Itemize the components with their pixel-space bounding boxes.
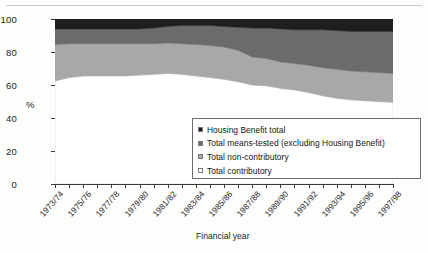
legend-swatch-icon	[198, 154, 203, 159]
x-tick	[252, 185, 253, 188]
legend-item[interactable]: Total means-tested (excluding Housing Be…	[198, 137, 415, 151]
x-tick	[266, 185, 267, 188]
x-tick	[97, 185, 98, 188]
chart-legend: Housing Benefit totalTotal means-tested …	[192, 118, 421, 179]
legend-label: Total means-tested (excluding Housing Be…	[207, 138, 385, 148]
x-tick	[309, 185, 310, 188]
x-tick	[210, 185, 211, 188]
legend-label: Total contributory	[207, 166, 272, 176]
y-tick-label: 60	[6, 80, 17, 91]
y-tick-label: 100	[1, 14, 17, 25]
x-tick	[168, 185, 169, 188]
legend-label: Housing Benefit total	[207, 125, 285, 135]
legend-swatch-icon	[198, 141, 203, 146]
x-tick	[365, 185, 366, 188]
x-tick	[393, 185, 394, 188]
top-divider-rule	[6, 5, 422, 6]
x-tick	[294, 185, 295, 188]
x-tick-label: 1981/82	[150, 189, 178, 219]
x-tick	[55, 185, 56, 188]
y-tick-label: 40	[6, 113, 17, 124]
x-tick	[111, 185, 112, 188]
x-tick	[351, 185, 352, 188]
x-tick-label: 1989/90	[263, 189, 291, 219]
x-tick	[323, 185, 324, 188]
x-axis-title: Financial year	[196, 231, 250, 241]
x-tick	[140, 185, 141, 188]
x-tick-label: 1983/84	[178, 189, 206, 219]
x-tick-label: 1985/86	[206, 189, 234, 219]
x-tick	[69, 185, 70, 188]
y-axis-title: %	[26, 99, 34, 110]
x-tick	[379, 185, 380, 188]
x-tick	[182, 185, 183, 188]
x-tick	[238, 185, 239, 188]
x-tick	[83, 185, 84, 188]
x-tick-label: 1977/78	[94, 189, 122, 219]
x-tick-label: 1975/76	[66, 189, 94, 219]
y-tick-label: 20	[6, 146, 17, 157]
x-tick-label: 1991/92	[291, 189, 319, 219]
x-tick	[280, 185, 281, 188]
x-tick	[337, 185, 338, 188]
x-tick	[154, 185, 155, 188]
legend-item[interactable]: Total contributory	[198, 164, 415, 178]
legend-swatch-icon	[198, 168, 203, 173]
legend-label: Total non-contributory	[207, 152, 289, 162]
x-tick-label: 1995/96	[347, 189, 375, 219]
y-tick-label: 80	[6, 47, 17, 58]
x-tick-label: 1987/88	[235, 189, 263, 219]
chart-figure: 020406080100% 1973/741975/761977/781979/…	[0, 0, 428, 253]
legend-item[interactable]: Total non-contributory	[198, 150, 415, 164]
x-tick	[125, 185, 126, 188]
x-tick-label: 1979/80	[122, 189, 150, 219]
x-tick	[224, 185, 225, 188]
y-tick-label: 0	[12, 179, 17, 190]
legend-item[interactable]: Housing Benefit total	[198, 123, 415, 137]
x-tick-label: 1997/98	[375, 189, 403, 219]
x-tick-label: 1993/94	[319, 189, 347, 219]
legend-swatch-icon	[198, 127, 203, 132]
x-tick	[196, 185, 197, 188]
